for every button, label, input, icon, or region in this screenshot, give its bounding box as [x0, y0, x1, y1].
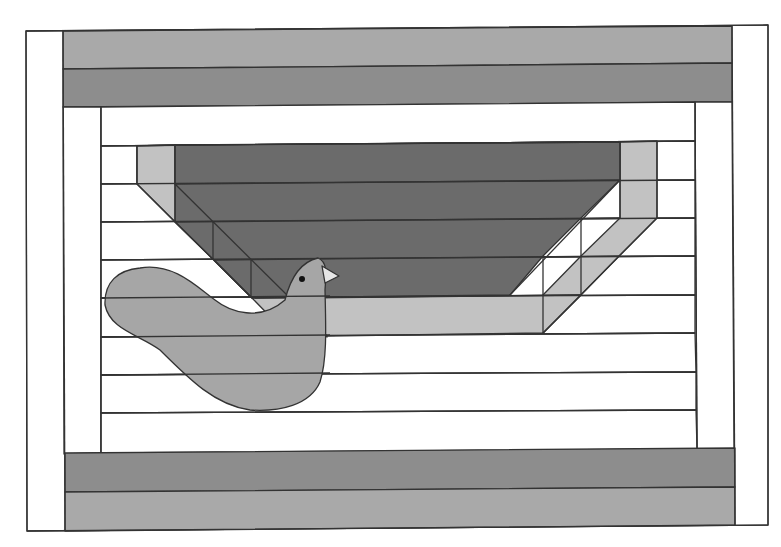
bottom-border-dark-strip — [65, 448, 735, 492]
quilt-diagram — [0, 0, 781, 547]
inner-white-right-strip — [695, 102, 734, 449]
inner-white-left-strip — [63, 107, 101, 454]
top-border-dark-strip — [63, 63, 732, 107]
bottom-border-light-strip — [65, 487, 735, 531]
top-border-light-strip — [63, 26, 732, 69]
basket-base-light-strip — [290, 295, 581, 336]
bird-eye — [299, 276, 305, 282]
inner-white-top-strip — [101, 102, 695, 146]
